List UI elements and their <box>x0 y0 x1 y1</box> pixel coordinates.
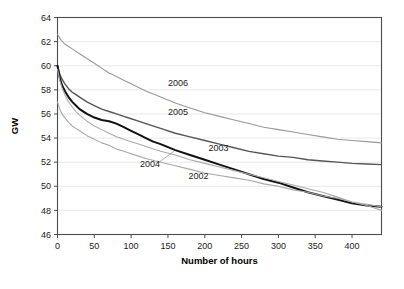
series-line-2002 <box>58 102 382 207</box>
xtick-label: 150 <box>160 241 175 251</box>
ytick-label: 46 <box>41 230 51 240</box>
ytick-label: 60 <box>41 61 51 71</box>
xtick-label: 50 <box>89 241 99 251</box>
series-label: 2002 <box>189 171 209 181</box>
series-line-2003 <box>58 66 382 207</box>
ytick-label: 50 <box>41 181 51 191</box>
ytick-label: 54 <box>41 133 51 143</box>
chart-figure: 4648505254565860626405010015020025030035… <box>0 0 404 289</box>
xtick-label: 350 <box>308 241 323 251</box>
series-annotation-2006: 2006 <box>168 78 188 88</box>
load-duration-chart: 4648505254565860626405010015020025030035… <box>0 0 404 289</box>
series-line-2006 <box>58 34 382 143</box>
xtick-label: 100 <box>124 241 139 251</box>
series-label: 2005 <box>168 107 188 117</box>
xtick-label: 0 <box>55 241 60 251</box>
ytick-label: 62 <box>41 37 51 47</box>
plot-frame <box>58 18 382 235</box>
series-label: 2003 <box>208 143 228 153</box>
xtick-label: 300 <box>271 241 286 251</box>
xtick-label: 200 <box>197 241 212 251</box>
series-annotation-2003: 2003 <box>208 143 228 153</box>
ytick-label: 56 <box>41 109 51 119</box>
series-label: 2004 <box>140 159 160 169</box>
series-line-2004 <box>58 69 382 210</box>
x-axis-title: Number of hours <box>181 255 258 266</box>
series-annotation-2002: 2002 <box>189 171 209 181</box>
ytick-label: 52 <box>41 157 51 167</box>
ytick-label: 48 <box>41 206 51 216</box>
series-label: 2006 <box>168 78 188 88</box>
xtick-label: 250 <box>234 241 249 251</box>
y-axis-title: GW <box>9 118 20 134</box>
series-annotation-2005: 2005 <box>168 107 188 117</box>
xtick-label: 400 <box>345 241 360 251</box>
ytick-label: 64 <box>41 13 51 23</box>
series-annotation-2004: 2004 <box>140 159 160 169</box>
ytick-label: 58 <box>41 85 51 95</box>
